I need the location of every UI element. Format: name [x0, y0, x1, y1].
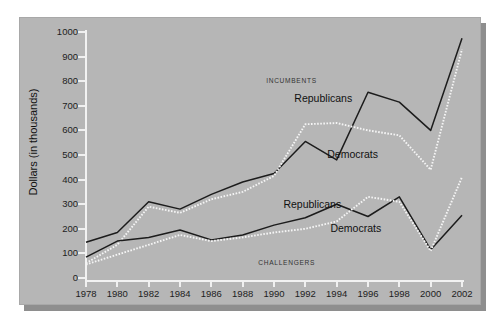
series-line-challengers-republicans [86, 197, 462, 257]
group-annotation-incumbents: INCUMBENTS [266, 77, 317, 84]
series-label-incumbents-democrats: Democrats [327, 148, 378, 160]
series-label-incumbents-republicans: Republicans [294, 92, 352, 104]
series-line-challengers-democrats [86, 177, 462, 264]
plot-area: Dollars (in thousands) 01002003004005006… [20, 18, 482, 306]
chart-panel: Dollars (in thousands) 01002003004005006… [19, 17, 481, 305]
series-line-incumbents-republicans [86, 38, 462, 242]
series-label-challengers-republicans: Republicans [283, 198, 341, 210]
group-annotation-challengers: CHALLENGERS [258, 259, 315, 266]
series-label-challengers-democrats: Democrats [330, 222, 381, 234]
chart-screenshot: Dollars (in thousands) 01002003004005006… [0, 0, 498, 324]
series-lines [20, 18, 482, 306]
